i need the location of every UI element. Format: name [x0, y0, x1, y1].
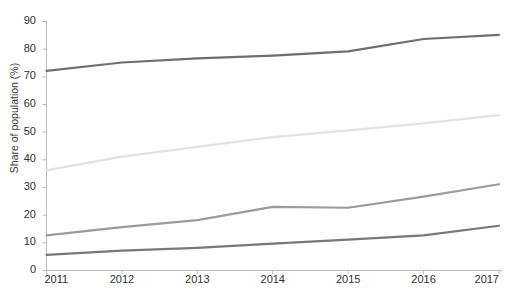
plot-area — [0, 0, 509, 289]
x-tick-label: 2011 — [45, 274, 69, 285]
series-line-series-4 — [47, 226, 500, 255]
y-tick-marks — [43, 22, 47, 271]
x-tick-label: 2013 — [185, 274, 209, 285]
x-tick-label: 2016 — [411, 274, 435, 285]
x-tick-label: 2014 — [261, 274, 285, 285]
line-chart: Share of population (%) 9080706050403020… — [0, 0, 509, 289]
x-tick-label: 2012 — [110, 274, 134, 285]
data-series-group — [47, 35, 500, 255]
x-tick-label: 2015 — [336, 274, 360, 285]
series-line-series-3 — [47, 184, 500, 235]
x-tick-label: 2017 — [475, 274, 499, 285]
series-line-series-2 — [47, 115, 500, 170]
series-line-series-1 — [47, 35, 500, 71]
